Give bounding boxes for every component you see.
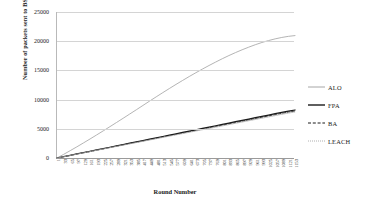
x-tick-label: 1057 (276, 159, 281, 168)
x-tick-label: 673 (196, 159, 201, 166)
line-chart: Number of packets sent to BS 05000100001… (0, 0, 378, 204)
legend-swatch-alo-icon (308, 83, 325, 91)
x-tick-label: 865 (236, 159, 241, 166)
x-tick-label: 897 (243, 159, 248, 166)
x-tick-label: 193 (97, 159, 102, 166)
x-tick-label: 481 (157, 159, 162, 166)
y-tick-label: 5000 (37, 126, 49, 132)
x-tick-label: 449 (150, 159, 155, 166)
x-tick-label: 97 (77, 159, 82, 163)
x-tick-label: 1153 (295, 159, 300, 168)
x-tick-label: 545 (170, 159, 175, 166)
x-tick-label: 961 (256, 159, 261, 166)
x-tick-label: 929 (249, 159, 254, 166)
x-tick-label: 801 (223, 159, 228, 166)
x-tick-label: 1 (57, 159, 62, 161)
legend-item-ba[interactable]: BA (308, 114, 376, 132)
gridline (57, 12, 294, 13)
legend-swatch-fpa-icon (308, 101, 325, 109)
series-layer (57, 12, 295, 158)
x-tick-label: 641 (190, 159, 195, 166)
series-line-alo (57, 36, 295, 158)
legend-item-leach[interactable]: LEACH (308, 132, 376, 150)
y-axis-tick-labels: 0500010000150002000025000 (18, 12, 52, 158)
gridline (57, 70, 294, 71)
chart-legend: ALOFPABALEACH (308, 78, 376, 150)
legend-swatch-leach-icon (308, 137, 325, 145)
legend-item-fpa[interactable]: FPA (308, 96, 376, 114)
x-tick-label: 289 (117, 159, 122, 166)
x-tick-label: 577 (176, 159, 181, 166)
x-tick-label: 129 (84, 159, 89, 166)
legend-label: ALO (328, 84, 342, 91)
y-tick-label: 20000 (34, 38, 49, 44)
x-tick-label: 225 (104, 159, 109, 166)
x-tick-label: 1121 (289, 159, 294, 168)
x-tick-label: 321 (124, 159, 129, 166)
x-tick-label: 705 (203, 159, 208, 166)
legend-label: LEACH (328, 138, 350, 145)
gridline (57, 41, 294, 42)
x-tick-label: 1089 (282, 159, 287, 168)
y-tick-label: 25000 (34, 9, 49, 15)
x-tick-label: 737 (209, 159, 214, 166)
x-tick-label: 993 (262, 159, 267, 166)
x-axis-tick-labels: 1336597129161193225257289321353385417449… (56, 159, 294, 187)
x-axis-title: Round Number (56, 188, 294, 195)
x-tick-label: 161 (90, 159, 95, 166)
plot-area (56, 12, 294, 158)
y-tick-label: 10000 (34, 97, 49, 103)
x-tick-label: 417 (143, 159, 148, 166)
legend-label: FPA (328, 102, 340, 109)
x-tick-label: 833 (229, 159, 234, 166)
series-line-leach (57, 112, 295, 158)
x-tick-label: 1025 (269, 159, 274, 168)
legend-label: BA (328, 120, 337, 127)
x-tick-label: 353 (130, 159, 135, 166)
gridline (57, 100, 294, 101)
x-tick-label: 257 (110, 159, 115, 166)
x-tick-label: 385 (137, 159, 142, 166)
x-tick-label: 513 (163, 159, 168, 166)
y-tick-label: 15000 (34, 67, 49, 73)
x-tick-label: 65 (71, 159, 76, 163)
legend-swatch-ba-icon (308, 119, 325, 127)
y-tick-label: 0 (46, 155, 49, 161)
gridline (57, 129, 294, 130)
x-tick-label: 609 (183, 159, 188, 166)
legend-item-alo[interactable]: ALO (308, 78, 376, 96)
x-tick-label: 33 (64, 159, 69, 163)
x-tick-label: 769 (216, 159, 221, 166)
